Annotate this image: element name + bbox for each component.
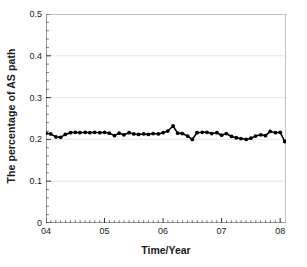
series-marker [142, 132, 146, 136]
series-marker [239, 137, 243, 141]
y-tick-label: 0.5 [29, 9, 42, 19]
series-marker [83, 130, 87, 134]
x-tick-label: 05 [100, 226, 110, 236]
series-marker [147, 132, 151, 136]
series-marker [49, 132, 53, 136]
series-marker [249, 136, 253, 140]
series-marker [88, 131, 92, 135]
y-tick-label: 0.2 [29, 134, 42, 144]
series-marker [259, 133, 263, 137]
series-marker [176, 131, 180, 135]
series-marker [200, 130, 204, 134]
x-tick-label: 08 [275, 226, 285, 236]
series-marker [63, 132, 67, 136]
data-series [46, 124, 286, 143]
x-axis-tick-labels: 0405060708 [46, 226, 286, 240]
y-tick-label: 0.4 [29, 51, 42, 61]
series-marker [215, 131, 219, 135]
series-marker [107, 131, 111, 135]
y-axis-label-text: The percentage of AS path [5, 48, 17, 183]
series-marker [180, 132, 184, 136]
series-marker [127, 131, 131, 135]
series-marker [98, 131, 102, 135]
y-tick-label: 0.3 [29, 93, 42, 103]
axis-major-ticks [46, 14, 280, 223]
series-marker [73, 130, 77, 134]
x-tick-label: 04 [41, 226, 51, 236]
series-marker [161, 131, 165, 135]
series-marker [195, 131, 199, 135]
series-marker [151, 132, 155, 136]
series-marker [103, 130, 107, 134]
series-marker [210, 132, 214, 136]
plot-frame [46, 14, 286, 223]
plot-area [46, 14, 286, 223]
chart-figure: The percentage of AS path 00.10.20.30.40… [0, 0, 307, 267]
series-marker [268, 130, 272, 134]
series-marker [113, 134, 117, 138]
x-tick-label: 07 [217, 226, 227, 236]
series-marker [205, 130, 209, 134]
series-marker [46, 131, 48, 135]
series-marker [234, 136, 238, 140]
series-marker [220, 133, 224, 137]
x-tick-label: 06 [158, 226, 168, 236]
series-marker [69, 131, 73, 135]
series-marker [122, 133, 126, 137]
series-marker [274, 131, 278, 135]
y-axis-tick-labels: 00.10.20.30.40.5 [22, 0, 44, 232]
series-marker [264, 134, 268, 138]
series-marker [156, 132, 160, 136]
series-marker [78, 131, 82, 135]
gridlines [46, 56, 286, 181]
series-marker [190, 138, 194, 142]
series-marker [117, 131, 121, 135]
series-marker [59, 135, 63, 139]
series-marker [54, 135, 58, 139]
axis-minor-ticks [46, 22, 275, 223]
series-marker [166, 129, 170, 133]
series-marker [254, 134, 258, 138]
series-marker [171, 124, 175, 128]
series-marker [132, 132, 136, 136]
series-marker [93, 130, 97, 134]
series-marker [278, 130, 282, 134]
plot-svg [46, 14, 286, 223]
y-tick-label: 0.1 [29, 176, 42, 186]
y-axis-label: The percentage of AS path [0, 0, 22, 232]
x-axis-label: Time/Year [46, 244, 286, 256]
series-marker [137, 132, 141, 136]
series-marker [230, 135, 234, 139]
series-marker [244, 138, 248, 142]
series-marker [186, 134, 190, 138]
series-marker [224, 132, 228, 136]
